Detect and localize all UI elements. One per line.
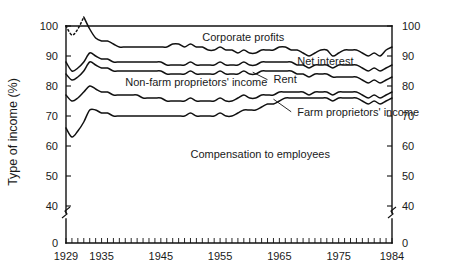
series-label-compensation-to-employees: Compensation to employees [191, 148, 331, 160]
y-axis-left-tick-0: 0 [52, 237, 58, 249]
x-axis-tick-1984: 1984 [380, 250, 404, 262]
y-axis-left-tick-90: 90 [46, 50, 58, 62]
x-axis-tick-1955: 1955 [208, 250, 232, 262]
x-axis-tick-1975: 1975 [326, 250, 350, 262]
x-axis-tick-1929: 1929 [54, 250, 78, 262]
y-axis-right-tick-0: 0 [402, 237, 408, 249]
series-label-net-interest: Net interest [297, 55, 353, 67]
series-label-nonfarm-proprietors-income: Non-farm proprietors' income [125, 76, 267, 88]
income-distribution-line-chart: Type of income (%) 1009080706050400 1009… [0, 0, 450, 274]
x-axis-tick-1945: 1945 [149, 250, 173, 262]
y-axis-right-tick-100: 100 [402, 20, 420, 32]
y-axis-right-tick-90: 90 [402, 50, 414, 62]
y-axis-right-tick-80: 80 [402, 80, 414, 92]
y-axis-right-tick-40: 40 [402, 200, 414, 212]
y-axis-right-tick-60: 60 [402, 140, 414, 152]
chart-figure: Type of income (%) 1009080706050400 1009… [0, 0, 450, 274]
y-axis-left-tick-80: 80 [46, 80, 58, 92]
series-label-rent: Rent [274, 73, 297, 85]
x-axis-tick-1935: 1935 [89, 250, 113, 262]
y-axis-title: Type of income (%) [6, 78, 20, 186]
y-axis-left-tick-70: 70 [46, 110, 58, 122]
y-axis-right-tick-50: 50 [402, 170, 414, 182]
x-axis-tick-1965: 1965 [267, 250, 291, 262]
y-axis-left-tick-100: 100 [40, 20, 58, 32]
series-label-corporate-profits: Corporate profits [202, 31, 284, 43]
series-label-farm-proprietors-income: Farm proprietors' income [297, 106, 419, 118]
y-axis-left-tick-40: 40 [46, 200, 58, 212]
y-axis-left-tick-50: 50 [46, 170, 58, 182]
y-axis-left-tick-60: 60 [46, 140, 58, 152]
